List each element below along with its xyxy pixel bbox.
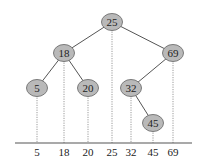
- tree-node-32: 32: [121, 80, 142, 97]
- node-label: 20: [83, 82, 95, 94]
- tree-node-69: 69: [163, 45, 184, 62]
- tree-edges: [37, 22, 173, 123]
- bst-diagram: 2518695203245 5182025324569: [0, 0, 204, 167]
- axis-label: 20: [83, 146, 95, 158]
- tree-node-18: 18: [54, 45, 75, 62]
- tree-node-25: 25: [102, 14, 123, 31]
- node-label: 18: [59, 47, 71, 59]
- tree-node-45: 45: [143, 115, 164, 132]
- node-label: 32: [126, 82, 137, 94]
- tree-node-20: 20: [78, 80, 99, 97]
- axis-label: 25: [107, 146, 119, 158]
- axis-label: 32: [126, 146, 137, 158]
- tree-nodes: 2518695203245: [27, 14, 184, 132]
- node-label: 69: [168, 47, 180, 59]
- axis-label: 5: [34, 146, 40, 158]
- node-label: 5: [34, 82, 40, 94]
- axis-label: 69: [168, 146, 180, 158]
- tree-node-5: 5: [27, 80, 48, 97]
- axis-labels: 5182025324569: [34, 146, 179, 158]
- node-label: 45: [148, 117, 160, 129]
- axis-label: 45: [148, 146, 160, 158]
- node-label: 25: [107, 16, 119, 28]
- axis-label: 18: [59, 146, 71, 158]
